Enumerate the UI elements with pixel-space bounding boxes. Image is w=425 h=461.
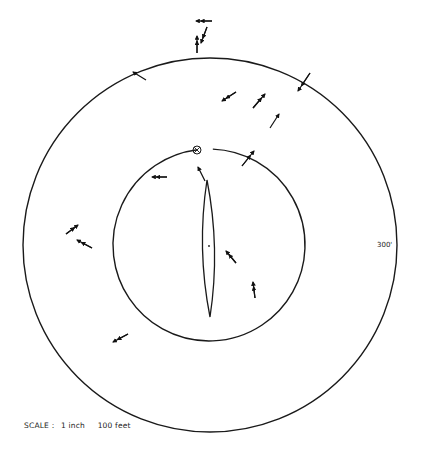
lens-shape (202, 180, 214, 317)
arrow-secondary-head-icon (254, 287, 255, 298)
center-dot (208, 245, 210, 247)
radius-label: 300' (377, 241, 392, 249)
arrow-secondary-head-icon (66, 228, 74, 234)
arrow-secondary-head-icon (82, 242, 93, 248)
radial-survey-diagram (0, 0, 425, 461)
scale-label: SCALE : 1 inch 100 feet (24, 421, 131, 430)
arrow-secondary-head-icon (253, 98, 261, 108)
arrow-icon (198, 167, 205, 181)
arrow-icon (270, 114, 279, 128)
scale-feet: 100 feet (98, 421, 131, 430)
outer-circle-300ft (23, 58, 397, 432)
arrow-secondary-head-icon (203, 27, 207, 38)
arrow-secondary-head-icon (229, 255, 236, 263)
arrow-secondary-head-icon (226, 92, 236, 98)
arrow-secondary-head-icon (118, 334, 129, 340)
arrow-icon (133, 72, 146, 80)
scale-inch: 1 inch (61, 421, 85, 430)
scale-prefix: SCALE : (24, 421, 54, 430)
